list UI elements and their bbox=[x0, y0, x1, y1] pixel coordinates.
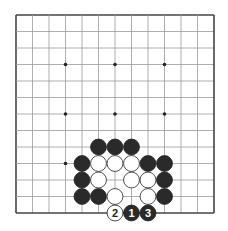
stone-disc bbox=[140, 189, 156, 205]
black-stone[interactable]: 1 bbox=[124, 205, 140, 221]
stone-disc bbox=[124, 156, 140, 172]
stone-disc bbox=[157, 189, 173, 205]
go-board[interactable]: 213 bbox=[0, 0, 228, 231]
black-stone[interactable] bbox=[107, 139, 123, 155]
stone-disc bbox=[140, 156, 156, 172]
star-point bbox=[163, 112, 167, 116]
star-point bbox=[64, 112, 68, 116]
white-stone[interactable] bbox=[140, 172, 156, 188]
black-stone[interactable] bbox=[124, 139, 140, 155]
star-point bbox=[113, 112, 117, 116]
stone-disc bbox=[74, 156, 90, 172]
stone-disc bbox=[91, 139, 107, 155]
move-number-label: 1 bbox=[128, 207, 134, 219]
stones-layer: 213 bbox=[74, 139, 172, 221]
white-stone[interactable] bbox=[124, 172, 140, 188]
stone-disc bbox=[157, 156, 173, 172]
black-stone[interactable] bbox=[74, 172, 90, 188]
white-stone[interactable] bbox=[91, 172, 107, 188]
stone-disc bbox=[124, 172, 140, 188]
stone-disc bbox=[91, 172, 107, 188]
star-point bbox=[64, 162, 68, 166]
stone-disc bbox=[157, 172, 173, 188]
star-point bbox=[113, 63, 117, 67]
white-stone[interactable]: 2 bbox=[107, 205, 123, 221]
black-stone[interactable] bbox=[74, 189, 90, 205]
stone-disc bbox=[107, 156, 123, 172]
black-stone[interactable]: 3 bbox=[140, 205, 156, 221]
stone-disc bbox=[107, 189, 123, 205]
stone-disc bbox=[74, 189, 90, 205]
move-number-label: 3 bbox=[145, 207, 151, 219]
stone-disc bbox=[74, 172, 90, 188]
black-stone[interactable] bbox=[91, 139, 107, 155]
black-stone[interactable] bbox=[157, 189, 173, 205]
star-point bbox=[64, 63, 68, 67]
black-stone[interactable] bbox=[140, 156, 156, 172]
white-stone[interactable] bbox=[107, 156, 123, 172]
stone-disc bbox=[140, 172, 156, 188]
star-point bbox=[163, 63, 167, 67]
white-stone[interactable] bbox=[91, 156, 107, 172]
black-stone[interactable] bbox=[157, 156, 173, 172]
black-stone[interactable] bbox=[157, 172, 173, 188]
black-stone[interactable] bbox=[74, 156, 90, 172]
stone-disc bbox=[107, 139, 123, 155]
white-stone[interactable] bbox=[124, 156, 140, 172]
stone-disc bbox=[91, 156, 107, 172]
black-stone[interactable] bbox=[91, 189, 107, 205]
stone-disc bbox=[91, 189, 107, 205]
stone-disc bbox=[124, 139, 140, 155]
move-number-label: 2 bbox=[112, 207, 118, 219]
white-stone[interactable] bbox=[107, 189, 123, 205]
white-stone[interactable] bbox=[140, 189, 156, 205]
